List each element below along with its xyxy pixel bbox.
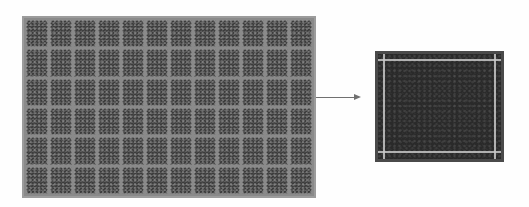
- mesh-cell: [146, 108, 168, 135]
- magnified-cell-detail: [375, 51, 504, 162]
- mesh-cell: [74, 137, 96, 164]
- mesh-cell: [170, 137, 192, 164]
- mesh-cell: [26, 49, 48, 76]
- mesh-cell: [290, 49, 312, 76]
- mesh-grid: [22, 16, 316, 198]
- mesh-cell: [74, 49, 96, 76]
- mesh-cell: [146, 167, 168, 194]
- mesh-cell: [122, 108, 144, 135]
- mesh-cell: [50, 167, 72, 194]
- detail-edge-line-right: [494, 54, 496, 159]
- mesh-cell: [98, 20, 120, 47]
- mesh-cell: [218, 20, 240, 47]
- mesh-cell: [122, 49, 144, 76]
- mesh-cell: [74, 79, 96, 106]
- mesh-cell: [218, 108, 240, 135]
- mesh-cell: [290, 79, 312, 106]
- mesh-cell: [170, 108, 192, 135]
- mesh-cell: [146, 20, 168, 47]
- arrow-line: [316, 97, 356, 98]
- mesh-cell: [26, 79, 48, 106]
- mesh-cell: [194, 20, 216, 47]
- mesh-cell: [242, 167, 264, 194]
- mesh-cell: [50, 108, 72, 135]
- mesh-cell: [218, 167, 240, 194]
- mesh-cell: [74, 108, 96, 135]
- mesh-cell: [194, 49, 216, 76]
- mesh-cell: [266, 137, 288, 164]
- mesh-cell: [122, 167, 144, 194]
- mesh-cell: [194, 108, 216, 135]
- mesh-cell: [266, 108, 288, 135]
- mesh-cell: [242, 20, 264, 47]
- mesh-cell: [218, 79, 240, 106]
- mesh-cell: [98, 137, 120, 164]
- mesh-cell: [122, 20, 144, 47]
- mesh-cell: [50, 79, 72, 106]
- mesh-cell: [74, 167, 96, 194]
- mesh-cell: [242, 137, 264, 164]
- mesh-cell: [266, 79, 288, 106]
- mesh-cell: [266, 20, 288, 47]
- mesh-cell: [146, 49, 168, 76]
- detail-edge-line-top: [378, 59, 501, 61]
- detail-edge-line-bottom: [378, 151, 501, 153]
- mesh-cell: [98, 49, 120, 76]
- mesh-cell: [194, 167, 216, 194]
- mesh-cell: [122, 137, 144, 164]
- mesh-cell: [50, 49, 72, 76]
- mesh-cell: [26, 20, 48, 47]
- figure-canvas: [0, 0, 529, 207]
- mesh-cell: [98, 108, 120, 135]
- mesh-cell: [50, 137, 72, 164]
- mesh-cell: [290, 137, 312, 164]
- mesh-cell: [290, 20, 312, 47]
- mesh-cell: [266, 167, 288, 194]
- mesh-cell: [170, 79, 192, 106]
- mesh-cell: [266, 49, 288, 76]
- mesh-cell: [74, 20, 96, 47]
- mesh-cell: [242, 79, 264, 106]
- mesh-cell: [170, 167, 192, 194]
- mesh-cell: [170, 49, 192, 76]
- mesh-cell: [194, 79, 216, 106]
- mesh-cell: [290, 108, 312, 135]
- mesh-cell: [146, 79, 168, 106]
- mesh-cell: [98, 79, 120, 106]
- mesh-cell: [194, 137, 216, 164]
- mesh-cell: [50, 20, 72, 47]
- mesh-cell: [242, 49, 264, 76]
- mesh-cell: [170, 20, 192, 47]
- mesh-cell: [98, 167, 120, 194]
- mesh-cell: [26, 108, 48, 135]
- mesh-cell: [26, 167, 48, 194]
- mesh-cell: [122, 79, 144, 106]
- mesh-cell: [290, 167, 312, 194]
- mesh-cell: [26, 137, 48, 164]
- mesh-cell: [218, 137, 240, 164]
- detail-edge-line-left: [383, 54, 385, 159]
- mesh-cell: [242, 108, 264, 135]
- mesh-cell: [146, 137, 168, 164]
- arrow-right-icon: [354, 94, 361, 100]
- mesh-cell: [218, 49, 240, 76]
